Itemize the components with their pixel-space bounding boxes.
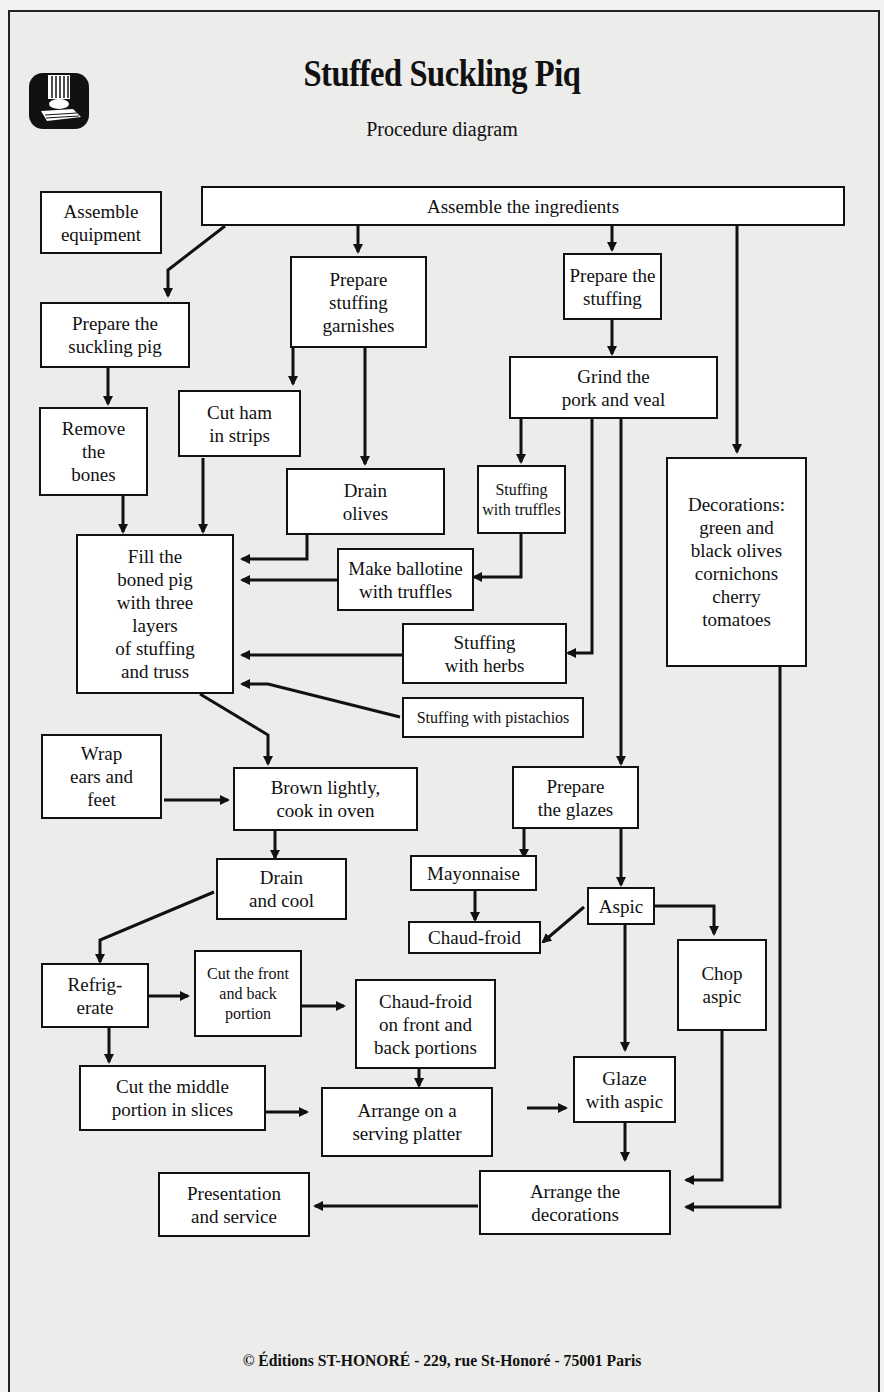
node-remove-bones: Remove the bones <box>39 407 148 496</box>
node-presentation-service: Presentation and service <box>158 1172 310 1237</box>
node-brown-cook: Brown lightly, cook in oven <box>233 767 418 831</box>
node-chaud-froid: Chaud-froid <box>408 921 541 954</box>
node-prepare-suckling-pig: Prepare the suckling pig <box>40 302 190 368</box>
copyright-footer: © Éditions ST-HONORÉ - 229, rue St-Honor… <box>35 1351 848 1371</box>
node-decorations: Decorations: green and black olives corn… <box>666 457 807 667</box>
node-prepare-stuffing-garnishes: Prepare stuffing garnishes <box>290 256 427 348</box>
node-chaud-froid-portions: Chaud-froid on front and back portions <box>355 979 496 1069</box>
node-wrap-ears-feet: Wrap ears and feet <box>41 734 162 819</box>
node-drain-olives: Drain olives <box>286 468 445 535</box>
node-stuffing-truffles: Stuffing with truffles <box>477 465 566 534</box>
node-aspic: Aspic <box>587 887 655 925</box>
node-glaze-aspic: Glaze with aspic <box>573 1056 676 1123</box>
node-fill-boned-pig: Fill the boned pig with three layers of … <box>76 534 234 694</box>
node-drain-cool: Drain and cool <box>216 858 347 920</box>
node-make-ballotine: Make ballotine with truffles <box>337 548 474 611</box>
node-cut-front-back: Cut the front and back portion <box>194 950 302 1037</box>
node-arrange-platter: Arrange on a serving platter <box>321 1087 493 1157</box>
node-stuffing-herbs: Stuffing with herbs <box>402 623 567 684</box>
node-mayonnaise: Mayonnaise <box>410 855 537 891</box>
node-refrigerate: Refrig- erate <box>41 963 149 1028</box>
node-arrange-decorations: Arrange the decorations <box>479 1170 671 1235</box>
node-prepare-stuffing: Prepare the stuffing <box>563 253 662 320</box>
node-grind-pork-veal: Grind the pork and veal <box>509 356 718 419</box>
node-cut-middle: Cut the middle portion in slices <box>79 1065 266 1131</box>
node-stuffing-pistachios: Stuffing with pistachios <box>402 697 584 738</box>
node-chop-aspic: Chop aspic <box>677 939 767 1031</box>
node-assemble-ingredients: Assemble the ingredients <box>201 186 845 226</box>
node-assemble-equipment: Assemble equipment <box>40 191 162 254</box>
node-prepare-glazes: Prepare the glazes <box>512 766 639 829</box>
node-cut-ham: Cut ham in strips <box>178 390 301 457</box>
